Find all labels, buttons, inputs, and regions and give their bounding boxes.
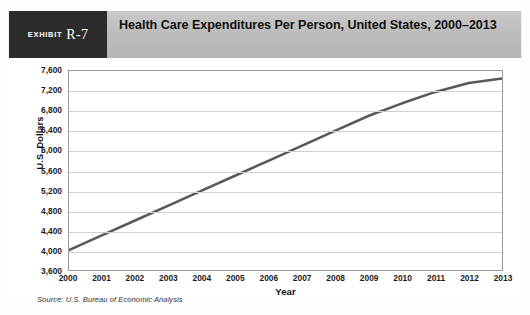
x-axis-tick-label: 2000 xyxy=(59,273,78,283)
gridline xyxy=(69,192,502,193)
x-axis-tick-label: 2007 xyxy=(293,273,312,283)
gridline xyxy=(69,91,502,92)
series-line-health-expenditures xyxy=(69,78,502,250)
exhibit-word-label: Exhibit xyxy=(28,30,63,39)
x-axis-tick-label: 2012 xyxy=(460,273,479,283)
exhibit-label-box: Exhibit R-7 xyxy=(9,11,107,58)
source-note: Source: U.S. Bureau of Economic Analysis xyxy=(37,295,183,304)
x-axis-tick-label: 2002 xyxy=(126,273,145,283)
x-axis-tick-label: 2010 xyxy=(393,273,412,283)
x-axis-tick-label: 2001 xyxy=(92,273,111,283)
plot-area xyxy=(68,70,503,271)
y-axis-tick-label: 4,400 xyxy=(41,226,62,236)
gridline xyxy=(69,252,502,253)
line-series-svg xyxy=(69,71,502,270)
x-axis-tick-label: 2008 xyxy=(326,273,345,283)
x-axis-tick-label: 2013 xyxy=(494,273,513,283)
gridline xyxy=(69,172,502,173)
exhibit-title: Health Care Expenditures Per Person, Uni… xyxy=(119,17,515,35)
y-axis-tick-label: 6,400 xyxy=(41,125,62,135)
y-axis-tick-label: 5,200 xyxy=(41,186,62,196)
x-axis-tick-label: 2005 xyxy=(226,273,245,283)
gridline xyxy=(69,111,502,112)
y-axis-tick-label: 6,800 xyxy=(41,105,62,115)
exhibit-number-label: R-7 xyxy=(66,27,88,43)
exhibit-header-band: Exhibit R-7 Health Care Expenditures Per… xyxy=(9,11,521,58)
exhibit-figure: Exhibit R-7 Health Care Expenditures Per… xyxy=(0,0,530,315)
x-axis-tick-label: 2004 xyxy=(192,273,211,283)
chart-card: U.S. Dollars 3,6004,0004,4004,8005,2005,… xyxy=(9,58,521,300)
gridline xyxy=(69,232,502,233)
y-axis-tick-label: 7,200 xyxy=(41,85,62,95)
x-axis-tick-label: 2003 xyxy=(159,273,178,283)
y-axis-tick-label: 4,000 xyxy=(41,246,62,256)
gridline xyxy=(69,131,502,132)
y-axis-tick-label: 4,800 xyxy=(41,206,62,216)
y-axis-tick-label: 6,000 xyxy=(41,145,62,155)
gridline xyxy=(69,212,502,213)
y-axis-tick-label: 5,600 xyxy=(41,166,62,176)
x-axis-tick-label: 2006 xyxy=(259,273,278,283)
y-axis-tick-label: 7,600 xyxy=(41,65,62,75)
x-axis-tick-label: 2009 xyxy=(360,273,379,283)
x-axis-tick-label: 2011 xyxy=(427,273,445,283)
y-axis-tick-labels: 3,6004,0004,4004,8005,2005,6006,0006,400… xyxy=(9,58,68,284)
gridline xyxy=(69,151,502,152)
